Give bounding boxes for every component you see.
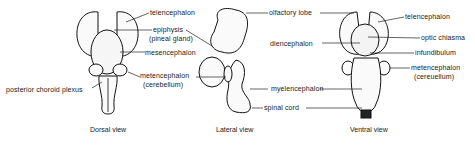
label-optic-chiasma: optic chiasma [421, 34, 465, 42]
label-ventral-cerebellum: (cereuellum) [414, 73, 454, 81]
caption-ventral-view: Ventral view [350, 126, 388, 134]
label-dorsal-epiphysis: epiphysis [153, 26, 183, 34]
label-diencephalon: diencephalon [270, 40, 313, 48]
label-spinal-cord: spinal cord [264, 104, 299, 112]
label-infundibulum: infundibulum [415, 49, 456, 57]
label-olfactory-lobe: olfactory lobe [269, 9, 312, 17]
ventral-brain-drawing [340, 12, 390, 118]
caption-dorsal-view: Dorsal view [90, 126, 126, 134]
caption-lateral-view: Lateral view [216, 126, 253, 134]
label-dorsal-metencephalon: metencephalon [140, 72, 189, 80]
label-dorsal-mesencephalon: mesencephalon [145, 49, 196, 57]
label-dorsal-cerebellum: (cerebellum) [143, 81, 183, 89]
label-dorsal-telencephalon: telencephalon [150, 9, 195, 17]
dorsal-brain-drawing [77, 12, 138, 114]
label-dorsal-posterior-choroid-plexus: posterior choroid plexus [6, 86, 83, 94]
label-ventral-metencephalon: metencephalon [411, 64, 460, 72]
brain-diagram-figure: telencephalon epiphysis (pineal gland) m… [0, 0, 475, 148]
label-dorsal-pineal-gland: (pineal gland) [149, 35, 193, 43]
lateral-brain-drawing [199, 8, 250, 112]
label-ventral-telencephalon: telencephalon [405, 13, 450, 21]
label-myelencephalon: myelencephalon [271, 85, 323, 93]
